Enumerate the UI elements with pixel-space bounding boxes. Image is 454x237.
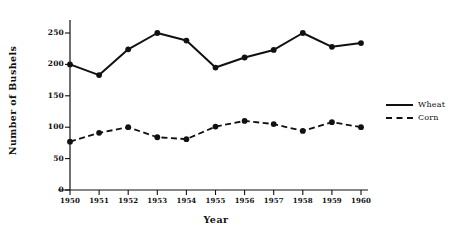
data-point-wheat-1959 — [329, 44, 335, 50]
x-axis-tick-labels: 1950195119521953195419551956195719581959… — [0, 196, 454, 210]
data-point-corn-1951 — [96, 130, 102, 136]
y-tick-label-150: 150 — [36, 92, 64, 100]
x-axis-title: Year — [68, 214, 364, 225]
data-point-wheat-1950 — [67, 62, 73, 68]
legend-line-swatch-corn — [386, 113, 413, 123]
data-point-corn-1956 — [242, 118, 248, 124]
data-point-wheat-1954 — [184, 38, 190, 44]
legend-item-wheat: Wheat — [386, 98, 452, 111]
data-point-corn-1960 — [358, 124, 364, 130]
data-point-wheat-1952 — [125, 46, 131, 52]
axis-ticks — [65, 33, 361, 195]
data-series — [67, 30, 364, 144]
data-point-wheat-1960 — [358, 40, 364, 46]
data-point-corn-1952 — [125, 124, 131, 130]
y-tick-label-50: 50 — [36, 155, 64, 163]
data-point-wheat-1956 — [242, 55, 248, 61]
data-point-wheat-1955 — [213, 65, 219, 71]
data-point-corn-1957 — [271, 121, 277, 127]
y-tick-label-200: 200 — [36, 60, 64, 68]
axes — [58, 20, 368, 190]
legend-label-corn: Corn — [413, 113, 439, 122]
legend-label-wheat: Wheat — [413, 100, 445, 109]
data-point-wheat-1953 — [154, 30, 160, 36]
data-point-corn-1954 — [184, 136, 190, 142]
data-point-corn-1953 — [154, 134, 160, 140]
legend-item-corn: Corn — [386, 111, 452, 124]
data-point-corn-1958 — [300, 128, 306, 134]
data-point-corn-1955 — [213, 124, 219, 130]
data-point-corn-1959 — [329, 119, 335, 125]
y-tick-label-100: 100 — [36, 123, 64, 131]
legend-line-swatch-wheat — [386, 100, 413, 110]
chart-figure: 050100150200250 195019511952195319541955… — [0, 0, 454, 237]
chart-legend: Wheat Corn — [386, 98, 452, 124]
data-point-wheat-1951 — [96, 72, 102, 78]
y-tick-label-250: 250 — [36, 29, 64, 37]
data-point-wheat-1957 — [271, 47, 277, 53]
y-tick-label-0: 0 — [36, 186, 64, 194]
data-point-corn-1950 — [67, 139, 73, 145]
data-point-wheat-1958 — [300, 30, 306, 36]
y-axis-title: Number of Bushels — [7, 0, 18, 231]
x-tick-label-1960: 1960 — [344, 196, 378, 205]
